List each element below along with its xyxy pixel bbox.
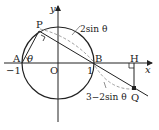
point-A-label: A	[12, 53, 21, 64]
dashed-brace-BQ	[95, 66, 133, 89]
tick-neg-one: −1	[6, 65, 21, 76]
x-axis-label: x	[145, 64, 151, 75]
geometry-figure: y x O −1 1 A B P H Q θ 2sin θ 3−2sin θ	[0, 0, 159, 130]
tick-one: 1	[87, 65, 93, 76]
right-angle-P	[41, 35, 45, 41]
point-Q-label: Q	[131, 92, 139, 103]
y-axis-label: y	[49, 3, 56, 14]
angle-theta-label: θ	[27, 53, 33, 64]
leader-lower	[104, 82, 106, 88]
origin-label: O	[50, 65, 58, 76]
point-Q-marker	[132, 86, 136, 90]
point-H-label: H	[130, 53, 139, 64]
point-B-label: B	[95, 53, 102, 64]
point-P-label: P	[36, 19, 43, 30]
annotation-lower: 3−2sin θ	[86, 92, 127, 102]
diagram-canvas: y x O −1 1 A B P H Q θ 2sin θ 3−2sin θ	[0, 0, 159, 130]
annotation-upper: 2sin θ	[80, 24, 107, 34]
